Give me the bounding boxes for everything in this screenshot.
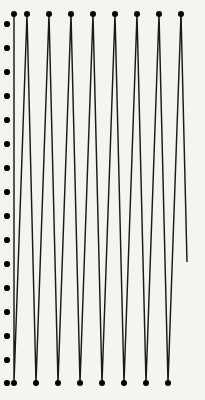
- trough-vertex-dot: [165, 380, 171, 386]
- peak-vertex-dot: [11, 11, 17, 17]
- margin-dot: [4, 309, 10, 315]
- peak-vertex-dot: [178, 11, 184, 17]
- margin-dot: [4, 141, 10, 147]
- margin-dot: [4, 213, 10, 219]
- peak-vertex-dot: [46, 11, 52, 17]
- trough-vertex-dot: [99, 380, 105, 386]
- trough-vertex-dot: [11, 380, 17, 386]
- peak-vertex-dot: [134, 11, 140, 17]
- peak-vertex-dot: [156, 11, 162, 17]
- figure-container: [0, 0, 205, 400]
- trough-vertex-dot: [121, 380, 127, 386]
- margin-dot: [4, 165, 10, 171]
- margin-dot: [4, 45, 10, 51]
- margin-dot: [4, 380, 10, 386]
- margin-dot: [4, 261, 10, 267]
- margin-dot: [4, 93, 10, 99]
- margin-dot: [4, 357, 10, 363]
- peak-vertex-dot: [24, 11, 30, 17]
- margin-dot: [4, 237, 10, 243]
- margin-dot: [4, 69, 10, 75]
- margin-dot: [4, 285, 10, 291]
- peak-vertex-dot: [112, 11, 118, 17]
- sawtooth-chart-svg: [0, 0, 205, 400]
- trough-vertex-dot: [33, 380, 39, 386]
- margin-dot: [4, 21, 10, 27]
- trough-vertex-dot: [143, 380, 149, 386]
- margin-dot: [4, 333, 10, 339]
- margin-dot: [4, 189, 10, 195]
- margin-dot: [4, 117, 10, 123]
- trough-vertex-dot: [77, 380, 83, 386]
- peak-vertex-dot: [90, 11, 96, 17]
- peak-vertex-dot: [68, 11, 74, 17]
- trough-vertex-dot: [55, 380, 61, 386]
